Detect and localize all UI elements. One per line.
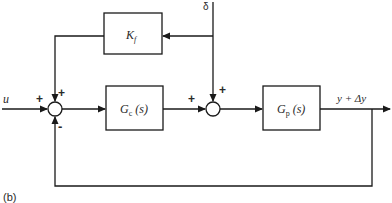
junction1-top-sign: +	[58, 86, 65, 100]
disturbance-label: δ	[203, 1, 209, 12]
block-diagram: u δ y + Δy Kf Gc(s) Gp(s) + + - + + (b)	[0, 0, 392, 203]
junction1-bottom-sign: -	[58, 119, 62, 134]
feedback-path	[55, 109, 372, 186]
junction1-input-sign: +	[36, 92, 43, 106]
feedforward-block-label: Kf	[125, 28, 138, 44]
plant-block	[263, 86, 320, 130]
junction2-top-sign: +	[219, 83, 226, 97]
figure-caption: (b)	[3, 191, 16, 203]
output-label: y + Δy	[336, 92, 366, 104]
summing-junction-1	[48, 102, 62, 116]
junction2-left-sign: +	[188, 92, 195, 106]
input-label: u	[3, 92, 9, 106]
summing-junction-2	[206, 102, 220, 116]
plant-block-label: Gp(s)	[277, 102, 305, 118]
controller-block-label: Gc(s)	[120, 102, 148, 118]
